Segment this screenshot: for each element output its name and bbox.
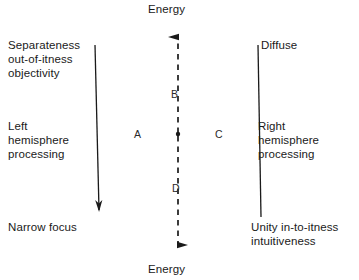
unity-label: Unity in-to-itness intuitiveness (251, 220, 338, 248)
quadrant-label-d: D (172, 182, 180, 194)
separateness-label: Separateness out-of-itness objectivity (8, 38, 80, 80)
quadrant-label-c: C (215, 128, 223, 140)
energy-top-label: Energy (148, 2, 185, 16)
narrow-focus-label: Narrow focus (8, 220, 77, 234)
quadrant-label-b: B (171, 88, 178, 100)
energy-bottom-label: Energy (148, 262, 185, 276)
diagonal-separateness-narrow (95, 45, 99, 210)
right-hemisphere-label: Right hemisphere processing (258, 119, 319, 161)
diagram-canvas: Energy Energy Separateness out-of-itness… (0, 0, 359, 280)
axes-intersection-dot (176, 132, 180, 136)
quadrant-label-a: A (134, 128, 141, 140)
diffuse-label: Diffuse (261, 38, 297, 52)
left-hemisphere-label: Left hemisphere processing (8, 119, 69, 161)
